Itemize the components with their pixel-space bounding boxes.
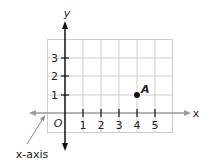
callout-leader-line	[27, 117, 44, 144]
y-tick-label-1: 1	[51, 89, 58, 102]
coordinate-plane: 1 2 3 4 5 1 2 3 O y x A x-axis	[0, 0, 209, 166]
origin-label: O	[54, 117, 63, 130]
x-tick-label-3: 3	[116, 119, 123, 132]
x-axis-callout: x-axis	[16, 148, 49, 161]
y-tick-label-3: 3	[51, 52, 58, 65]
callout-arrow-icon	[40, 115, 45, 121]
y-axis-down-arrow-icon	[62, 143, 68, 151]
y-tick-label-2: 2	[51, 70, 58, 83]
y-axis-label: y	[63, 7, 71, 20]
x-axis-right-arrow-icon	[184, 110, 191, 116]
x-axis	[29, 110, 191, 116]
x-axis-left-arrow-icon	[29, 110, 36, 116]
x-tick-label-4: 4	[134, 119, 141, 132]
x-tick-label-1: 1	[80, 119, 87, 132]
x-axis-label: x	[193, 107, 200, 120]
point-a-label: A	[140, 83, 150, 96]
x-tick-label-5: 5	[152, 119, 159, 132]
y-axis-up-arrow-icon	[62, 21, 68, 29]
y-axis	[62, 21, 68, 151]
x-tick-label-2: 2	[98, 119, 105, 132]
point-a	[134, 92, 140, 98]
